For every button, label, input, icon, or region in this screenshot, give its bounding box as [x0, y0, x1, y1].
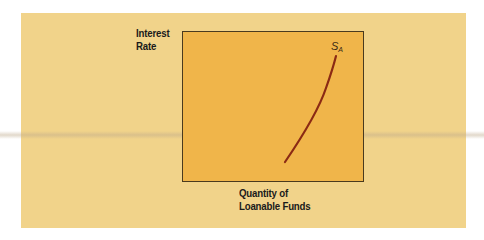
y-axis-label-line2: Rate [136, 40, 169, 53]
curve-label-sa: SA [331, 40, 343, 53]
curve-label-subscript: A [338, 46, 343, 53]
y-axis-label: Interest Rate [136, 27, 169, 53]
x-axis-label-line1: Quantity of [239, 187, 311, 200]
y-axis-label-line1: Interest [136, 27, 169, 40]
x-axis-label-line2: Loanable Funds [239, 200, 311, 213]
x-axis-label: Quantity of Loanable Funds [239, 187, 311, 213]
plot-area [182, 31, 364, 182]
